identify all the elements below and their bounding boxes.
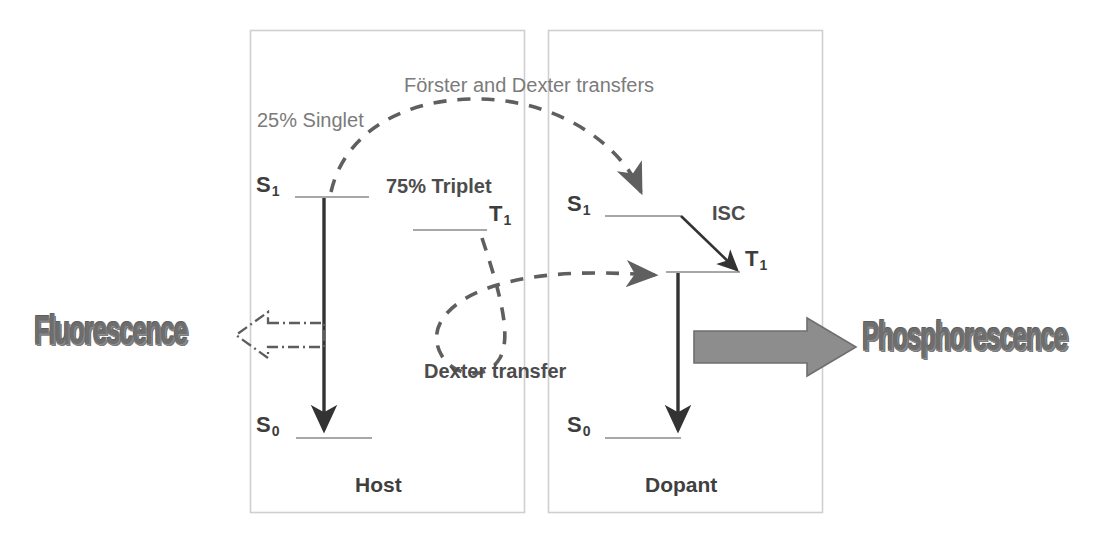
fluorescence-wordart: Fluorescence — [34, 310, 187, 351]
dopant-s0-subscript: 0 — [583, 423, 591, 439]
phosphorescence-block-arrow — [694, 318, 856, 376]
phosphorescence-wordart: Phosphorescence — [862, 316, 1067, 357]
host-s1-symbol: S — [256, 172, 271, 197]
host-t1-subscript: 1 — [503, 212, 511, 228]
dopant-t1-symbol: T — [745, 246, 758, 271]
host-t1-symbol: T — [489, 201, 502, 226]
host-panel-caption: Host — [355, 474, 402, 495]
diagram-canvas: Förster and Dexter transfers 25% Singlet… — [0, 0, 1095, 536]
dopant-s1-subscript: 1 — [583, 202, 591, 218]
singlet-fraction-label: 25% Singlet — [257, 110, 364, 130]
host-s1-subscript: 1 — [272, 183, 280, 199]
triplet-fraction-label: 75% Triplet — [386, 176, 492, 196]
host-panel-box — [251, 31, 525, 513]
host-s1-label: S1 — [256, 174, 278, 196]
host-s0-symbol: S — [256, 412, 271, 437]
dopant-t1-label: T1 — [745, 248, 766, 270]
fluorescence-block-arrow — [236, 312, 324, 358]
dexter-transfer-curve — [437, 238, 655, 374]
isc-label: ISC — [712, 203, 745, 223]
host-t1-label: T1 — [489, 203, 510, 225]
dopant-panel-caption: Dopant — [645, 474, 717, 495]
host-s0-label: S0 — [256, 414, 278, 436]
dexter-transfer-label: Dexter transfer — [424, 361, 566, 381]
dopant-s0-symbol: S — [567, 412, 582, 437]
dopant-s1-label: S1 — [567, 193, 589, 215]
dopant-s0-label: S0 — [567, 414, 589, 436]
dopant-t1-subscript: 1 — [759, 257, 767, 273]
host-s0-subscript: 0 — [272, 423, 280, 439]
dopant-s1-symbol: S — [567, 191, 582, 216]
isc-arrow — [681, 216, 737, 270]
forster-dexter-transfers-label: Förster and Dexter transfers — [404, 75, 654, 95]
